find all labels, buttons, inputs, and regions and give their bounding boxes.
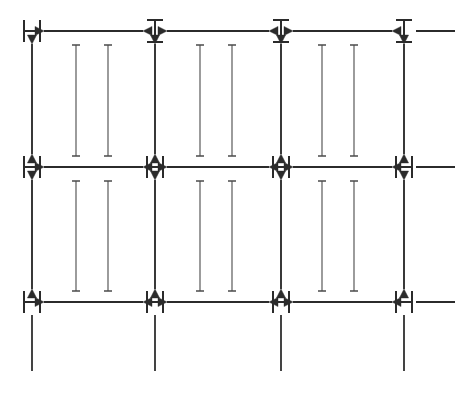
- node-hit-area[interactable]: [21, 17, 43, 45]
- vertical-connector: [399, 171, 408, 298]
- ibeam-segment: [104, 181, 112, 291]
- horizontal-connector: [35, 297, 152, 306]
- vertical-connector: [399, 35, 408, 163]
- stub-layer: [32, 31, 455, 371]
- node-hit-area[interactable]: [21, 153, 43, 181]
- grid-node[interactable]: [144, 153, 166, 181]
- horizontal-connector: [158, 297, 278, 306]
- horizontal-connector: [158, 162, 278, 171]
- ibeam-segment: [72, 181, 80, 291]
- grid-node[interactable]: [270, 153, 292, 181]
- ibeam-segment: [228, 181, 236, 291]
- grid-node[interactable]: [144, 17, 166, 45]
- ibeam-segment: [196, 45, 204, 156]
- ibeam-segment: [318, 181, 326, 291]
- grid-node[interactable]: [144, 288, 166, 316]
- diagram-canvas: [0, 0, 463, 399]
- node-hit-area[interactable]: [144, 288, 166, 316]
- ibeam-segment: [350, 45, 358, 156]
- horizontal-connector: [158, 26, 278, 35]
- grid-node[interactable]: [270, 288, 292, 316]
- grid-node[interactable]: [21, 17, 43, 45]
- ibeam-segment: [104, 45, 112, 156]
- grid-node[interactable]: [393, 153, 415, 181]
- node-hit-area[interactable]: [270, 153, 292, 181]
- grid-node[interactable]: [21, 153, 43, 181]
- ibeam-segment: [350, 181, 358, 291]
- ibeam-segment: [196, 181, 204, 291]
- node-hit-area[interactable]: [144, 153, 166, 181]
- grid-node[interactable]: [270, 17, 292, 45]
- node-hit-area[interactable]: [270, 17, 292, 45]
- grid-node[interactable]: [393, 17, 415, 45]
- vertical-connector: [27, 35, 36, 163]
- vertical-connector: [150, 35, 159, 163]
- horizontal-connector: [284, 297, 401, 306]
- ibeam-segment: [318, 45, 326, 156]
- grid-node[interactable]: [21, 288, 43, 316]
- vertical-connector: [27, 171, 36, 298]
- horizontal-connector: [284, 26, 401, 35]
- ibeam-segment: [228, 45, 236, 156]
- vertical-connector: [276, 171, 285, 298]
- connector-layer: [27, 26, 408, 306]
- vertical-connector: [150, 171, 159, 298]
- node-hit-area[interactable]: [21, 288, 43, 316]
- grid-node[interactable]: [393, 288, 415, 316]
- node-hit-area[interactable]: [393, 17, 415, 45]
- node-hit-area[interactable]: [393, 153, 415, 181]
- ibeam-segment: [72, 45, 80, 156]
- node-hit-area[interactable]: [144, 17, 166, 45]
- node-hit-area[interactable]: [270, 288, 292, 316]
- vertical-connector: [276, 35, 285, 163]
- grid-diagram-svg: [0, 0, 463, 399]
- horizontal-connector: [35, 162, 152, 171]
- horizontal-connector: [284, 162, 401, 171]
- horizontal-connector: [35, 26, 152, 35]
- node-hit-area[interactable]: [393, 288, 415, 316]
